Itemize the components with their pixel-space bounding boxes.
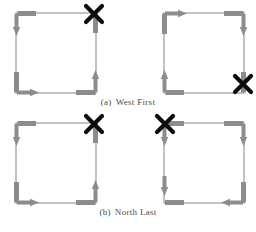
turn-arrow-top-left	[165, 10, 188, 34]
panel-svg-a-right	[148, 0, 256, 110]
square-outline	[16, 13, 96, 93]
turn-arrow-bottom-left	[161, 70, 184, 93]
arrowhead-right-icon	[30, 89, 39, 96]
panel-north-last-right	[148, 110, 256, 220]
turn-arrow-top-right	[224, 124, 247, 147]
turn-arrow-top-left	[13, 124, 36, 147]
turn-model-figure: (a)West First	[0, 0, 256, 232]
caption-a-text: West First	[116, 97, 156, 107]
arrowhead-up-icon	[92, 180, 99, 189]
arrowhead-up-icon	[92, 70, 99, 79]
turn-arrow-bottom-right	[76, 70, 99, 93]
panel-west-first-left	[0, 0, 130, 110]
panel-svg-a-left	[0, 0, 130, 110]
turn-arrow-bottom-left	[17, 72, 40, 96]
square-outline	[164, 123, 244, 203]
arrowhead-left-icon	[221, 199, 230, 206]
panel-west-first-right	[148, 0, 256, 110]
arrowhead-right-icon	[178, 10, 187, 17]
panel-svg-b-left	[0, 110, 130, 220]
caption-b: (b)North Last	[0, 207, 256, 217]
caption-b-text: North Last	[115, 207, 157, 217]
turn-arrow-top-left	[13, 14, 36, 37]
arrowhead-down-icon	[161, 187, 168, 196]
square-outline	[16, 123, 96, 203]
arrowhead-down-icon	[13, 137, 20, 146]
panel-north-last-left	[0, 110, 130, 220]
arrowhead-down-icon	[240, 137, 247, 146]
arrowhead-down-icon	[13, 27, 20, 36]
caption-a: (a)West First	[0, 97, 256, 107]
turn-arrow-bottom-left	[17, 182, 40, 206]
turn-arrow-bottom-right	[76, 180, 99, 203]
arrowhead-down-icon	[161, 137, 168, 146]
turn-arrow-top-right	[224, 14, 247, 37]
arrowhead-right-icon	[30, 199, 39, 206]
arrowhead-up-icon	[161, 70, 168, 79]
arrowhead-down-icon	[240, 27, 247, 36]
panel-svg-b-right	[148, 110, 256, 220]
caption-a-label: (a)	[101, 97, 112, 107]
turn-arrow-bottom-right	[221, 182, 244, 206]
caption-b-label: (b)	[99, 207, 110, 217]
square-outline	[164, 13, 244, 93]
